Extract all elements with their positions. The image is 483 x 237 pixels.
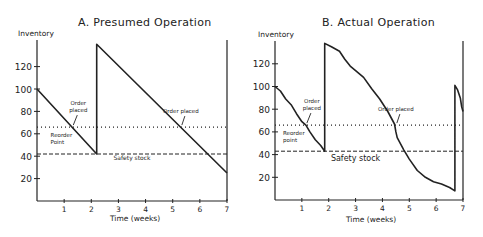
svg-text:Order: Order (304, 98, 320, 104)
safety-stock-label: Safety stock (331, 154, 381, 163)
svg-text:Reorder: Reorder (283, 130, 305, 136)
x-tick-label: 2 (326, 204, 331, 213)
chart-b-ylabel: Inventory (258, 30, 294, 39)
chart-a-xlabel: Time (weeks) (109, 214, 160, 223)
x-tick-label: 4 (380, 204, 385, 213)
safety-stock-label: Safety stock (113, 154, 151, 162)
x-tick-label: 3 (353, 204, 358, 213)
arrow-icon (73, 115, 77, 125)
reorder-point-label: Reorderpoint (283, 130, 305, 144)
chart-a-annotations: OrderplacedOrder placedReorderPointSafet… (51, 100, 199, 161)
x-tick-label: 5 (170, 205, 175, 214)
y-tick-label: 120 (253, 59, 270, 69)
x-tick-label: 4 (143, 205, 148, 214)
chart-actual-operation: B. Actual Operation Inventory 2040608010… (240, 0, 483, 237)
chart-b-annotations: OrderplacedOrder placedReorderpointSafet… (283, 98, 414, 163)
chart-b-title: B. Actual Operation (322, 16, 435, 29)
order-placed-label: Order placed (378, 106, 414, 123)
y-tick-label: 80 (21, 107, 33, 117)
chart-a-svg: A. Presumed Operation Inventory 20406080… (0, 0, 240, 237)
chart-a-title: A. Presumed Operation (78, 16, 212, 29)
svg-text:point: point (283, 137, 298, 144)
y-tick-label: 120 (15, 62, 32, 72)
svg-text:Order placed: Order placed (163, 108, 199, 115)
svg-text:Order placed: Order placed (378, 106, 414, 113)
inventory-line (275, 43, 463, 191)
order-placed-label: Order placed (163, 108, 199, 125)
reorder-point-label: ReorderPoint (51, 132, 73, 145)
chart-presumed-operation: A. Presumed Operation Inventory 20406080… (0, 0, 240, 237)
order-placed-label: Orderplaced (303, 98, 321, 123)
x-tick-label: 3 (116, 205, 121, 214)
y-tick-label: 20 (21, 174, 33, 184)
y-tick-label: 40 (259, 150, 271, 160)
order-placed-label: Orderplaced (69, 100, 87, 125)
chart-b-axes: 204060801001201234567 (253, 41, 466, 213)
svg-text:placed: placed (69, 107, 87, 114)
arrow-icon (182, 116, 185, 125)
y-tick-label: 40 (21, 152, 33, 162)
y-tick-label: 60 (259, 127, 271, 137)
chart-b-svg: B. Actual Operation Inventory 2040608010… (240, 0, 483, 237)
y-tick-label: 100 (15, 85, 32, 95)
x-tick-label: 7 (225, 205, 230, 214)
svg-text:placed: placed (303, 105, 321, 112)
svg-text:Order: Order (70, 100, 86, 106)
svg-text:Safety stock: Safety stock (113, 154, 151, 162)
svg-text:Reorder: Reorder (51, 132, 73, 138)
x-tick-label: 5 (407, 204, 412, 213)
chart-a-ylabel: Inventory (18, 29, 54, 38)
x-tick-label: 6 (434, 204, 439, 213)
y-tick-label: 100 (253, 82, 270, 92)
y-tick-label: 20 (259, 173, 271, 183)
chart-b-xlabel: Time (weeks) (345, 215, 396, 224)
x-tick-label: 1 (299, 204, 304, 213)
svg-text:Point: Point (51, 139, 65, 145)
svg-text:Safety stock: Safety stock (331, 154, 381, 163)
arrow-icon (307, 113, 311, 123)
x-tick-label: 1 (62, 205, 67, 214)
x-tick-label: 2 (89, 205, 94, 214)
x-tick-label: 7 (461, 204, 466, 213)
y-tick-label: 60 (21, 129, 33, 139)
chart-b-series (275, 43, 463, 191)
x-tick-label: 6 (197, 205, 202, 214)
y-tick-label: 80 (259, 105, 271, 115)
arrow-icon (397, 114, 400, 123)
